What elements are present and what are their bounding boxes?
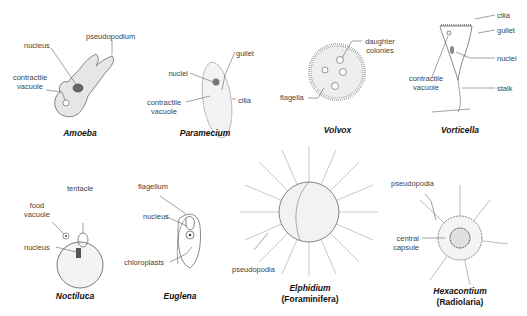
label-vacuole: vacuole	[20, 210, 54, 219]
label-gullet: gullet	[236, 49, 254, 58]
label-cilia: cilia	[238, 96, 251, 105]
label-vacuole: vacuole	[10, 82, 50, 91]
title-hexacontium: Hexacontium	[420, 286, 500, 296]
title-volvox: Volvox	[310, 125, 365, 135]
label-vacuole: vacuole	[404, 83, 448, 92]
label-nucleus: nucleus	[24, 41, 50, 50]
label-colonies: colonies	[360, 46, 400, 55]
label-nuclei: nuclei	[152, 69, 188, 78]
label-pseudopodium: pseudopodium	[86, 32, 135, 41]
volvox-drawing	[308, 41, 365, 100]
elphidium-drawing	[240, 146, 378, 276]
label-flagella: flagella	[280, 93, 304, 102]
title-noctiluca: Noctiluca	[45, 291, 105, 301]
label-stalk: stalk	[497, 84, 512, 93]
label-flagellum: flagellum	[138, 182, 168, 191]
label-gullet: gullet	[497, 26, 515, 35]
label-nuclei: nuclei	[497, 54, 517, 63]
label-cilia: cilia	[497, 11, 510, 20]
label-contractile: contractile	[10, 73, 50, 82]
title-amoeba: Amoeba	[50, 128, 110, 138]
label-tentacle: tentacle	[67, 184, 93, 193]
label-pseudopodia: pseudopodia	[232, 265, 275, 274]
title-elphidium: Elphidium	[275, 283, 345, 293]
label-chloroplasts: chloroplasts	[124, 258, 164, 267]
title-vorticella: Vorticella	[430, 125, 490, 135]
label-capsule: capsule	[383, 243, 419, 252]
label-pseudopodia: pseudopodia	[391, 179, 434, 188]
paramecium-drawing	[186, 52, 236, 140]
label-nucleus: nucleus	[24, 243, 50, 252]
label-daughter: daughter	[360, 37, 400, 46]
hexacontium-drawing	[420, 185, 508, 285]
label-central: central	[383, 234, 419, 243]
title-paramecium: Paramecium	[170, 128, 240, 138]
label-nucleus: nucleus	[143, 212, 169, 221]
label-contractile: contractile	[404, 74, 448, 83]
noctiluca-drawing	[52, 222, 103, 288]
subtitle-radiolaria: (Radiolaria)	[420, 297, 500, 307]
title-euglena: Euglena	[155, 291, 205, 301]
vorticella-drawing	[432, 15, 495, 112]
amoeba-drawing	[46, 40, 114, 117]
subtitle-foraminifera: (Foraminifera)	[270, 294, 350, 304]
euglena-drawing	[160, 196, 201, 268]
label-vacuole: vacuole	[144, 107, 184, 116]
label-food: food	[20, 201, 54, 210]
label-contractile: contractile	[144, 98, 184, 107]
